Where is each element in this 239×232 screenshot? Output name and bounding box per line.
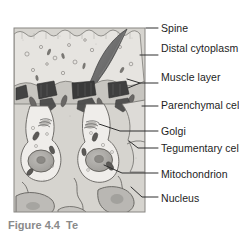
label-parenchymal-cell: Parenchymal cell [161, 99, 239, 112]
label-muscle-layer: Muscle layer [161, 71, 237, 84]
figure-caption: Figure 4.4 Te [8, 219, 158, 232]
figure-panel: Spine Distal cytoplasm Muscle layer Pare… [0, 0, 239, 232]
label-distal-cytoplasm: Distal cytoplasm [161, 42, 237, 55]
label-mitochondrion: Mitochondrion [161, 168, 228, 181]
figure-caption-text: Figure 4.4 Te [8, 219, 158, 232]
micrograph-artwork [14, 28, 145, 216]
label-golgi: Golgi [161, 125, 186, 138]
label-tegumentary-cell-body: Tegumentary cell body [161, 142, 239, 155]
tegument-diagram [0, 0, 239, 232]
label-nucleus: Nucleus [161, 192, 199, 205]
label-spine: Spine [161, 22, 188, 35]
